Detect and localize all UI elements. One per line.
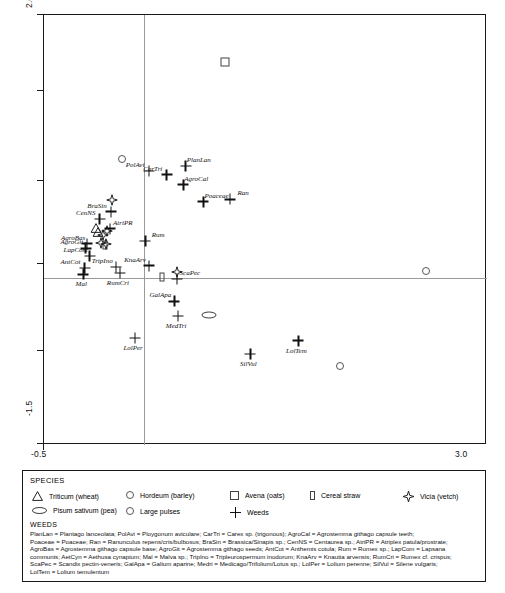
point-label: LolTem (286, 347, 307, 355)
point-label: SilVul (240, 360, 257, 368)
weeds-abbreviation-line: PlanLan = Plantago lanceolata; PolAvi = … (30, 530, 480, 538)
point-label: AtriPR (113, 219, 132, 227)
x-axis-max-label: 3.0 (455, 449, 467, 459)
legend-entry-label: Weeds (247, 509, 269, 516)
point-label: RumCri (107, 279, 129, 287)
legend-entry: Hordeum (barley) (126, 491, 194, 500)
marker-weed-plus (293, 335, 304, 346)
ordination-figure: 2.0 -1.5 -0.5 3.0 PolAviCarTriPlanLanAgr… (0, 0, 505, 593)
weeds-abbreviation-line: ScaPec = Scandix pectin-veneris; GalApa … (30, 560, 480, 568)
legend-entry: Weeds (230, 507, 269, 519)
point-label: CenNS (76, 209, 95, 217)
vertical-zero-axis (144, 15, 145, 445)
point-label: LolPer (123, 344, 142, 352)
legend-entry: Avena (oats) (230, 491, 285, 501)
weeds-heading: WEEDS (30, 521, 57, 528)
weeds-abbreviation-list: PlanLan = Plantago lanceolata; PolAvi = … (30, 530, 480, 576)
legend-star-icon (403, 491, 414, 502)
point-label: Rum (152, 231, 165, 239)
point-label: AgroCal (184, 175, 208, 183)
legend-box: SPECIES Triticum (wheat)Hordeum (barley)… (22, 470, 486, 582)
marker-rect (159, 272, 164, 281)
marker-weed-plus (114, 268, 125, 279)
marker-weed-plus (173, 311, 184, 322)
scatter-plot-canvas: PolAviCarTriPlanLanAgroCalPoaceaeRanBraS… (43, 14, 486, 444)
legend-circle-icon (126, 491, 134, 499)
marker-weed-plus (161, 169, 172, 180)
point-label: TripIno (92, 257, 113, 265)
marker-star (101, 236, 112, 247)
weeds-abbreviation-line: communis; AetCyn = Aethusa cynapium; Mal… (30, 553, 480, 561)
y-axis-max-label: 2.0 (24, 0, 34, 8)
marker-circle (422, 267, 430, 275)
marker-weed-plus (245, 349, 256, 360)
legend-entry: Triticum (wheat) (32, 491, 99, 502)
legend-square-icon (230, 491, 239, 500)
marker-weed-plus (225, 194, 236, 205)
point-label: GalApa (149, 291, 171, 299)
legend-entry-label: Cereal straw (321, 492, 360, 499)
weeds-abbreviation-line: Poaceae = Poaceae; Ran = Ranunculus repe… (30, 538, 480, 546)
legend-entry-label: Avena (oats) (245, 492, 285, 499)
weeds-abbreviation-line: LolTem = Lolium temulentum (30, 568, 480, 576)
point-label: ScaPec (180, 269, 201, 277)
legend-entry-label: Vicia (vetch) (420, 493, 458, 500)
marker-weed-plus (106, 206, 117, 217)
marker-weed-plus (78, 269, 89, 280)
marker-star (107, 191, 118, 202)
legend-entry-label: Hordeum (barley) (140, 492, 194, 499)
point-label: AntCot (61, 258, 81, 266)
point-label: KnaArv (124, 256, 146, 264)
y-axis-min-label: -1.5 (24, 401, 34, 416)
legend-entry: Pisum sativum (pea) (32, 507, 117, 515)
weeds-abbreviation-line: AgroBas = Agrostemma githago capsule bas… (30, 545, 480, 553)
marker-ellipse (201, 311, 216, 318)
legend-entry: Cereal straw (310, 491, 360, 501)
point-label: LapCom (64, 246, 88, 254)
legend-title: SPECIES (30, 476, 65, 485)
point-label: Mal (76, 280, 87, 288)
marker-circle (336, 362, 344, 370)
legend-entry-label: Triticum (wheat) (49, 493, 99, 500)
x-axis-min-label: -0.5 (31, 449, 46, 459)
marker-weed-plus (140, 236, 151, 247)
point-label: CarTri (143, 165, 162, 173)
point-label: PlanLan (187, 156, 211, 164)
legend-circle-icon (126, 507, 134, 515)
legend-ellipse-icon (32, 507, 47, 514)
legend-rect-icon (310, 491, 315, 500)
legend-entry: Large pulses (126, 507, 180, 516)
marker-weed-plus (130, 333, 141, 344)
point-label: Ran (237, 189, 248, 197)
legend-entry-label: Pisum sativum (pea) (53, 507, 117, 514)
legend-entry: Vicia (vetch) (403, 491, 458, 503)
point-label: PolAvi (126, 161, 145, 169)
legend-plus-icon (230, 507, 241, 518)
marker-square (220, 57, 229, 66)
legend-triangle-icon (32, 491, 43, 501)
legend-entry-label: Large pulses (140, 508, 180, 515)
point-label: MedTri (166, 322, 187, 330)
